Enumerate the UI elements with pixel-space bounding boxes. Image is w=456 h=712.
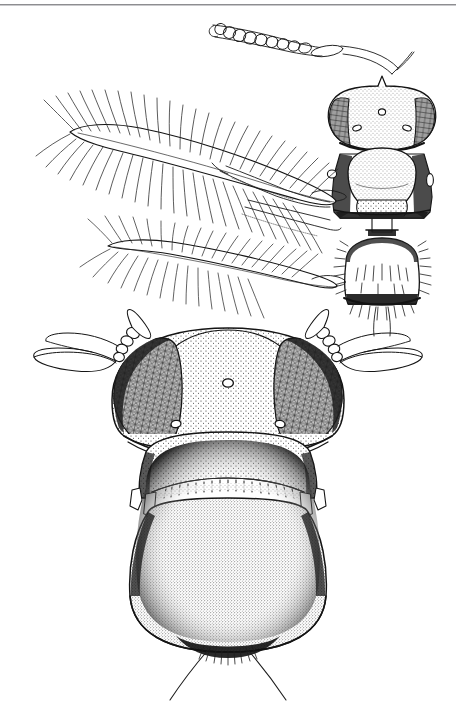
caudal-seta-left [170, 650, 208, 700]
median-ocellus-lower [223, 379, 234, 387]
fig-upper-hindwing [80, 216, 337, 318]
fig-upper-head [328, 76, 436, 151]
caudal-seta-right [248, 650, 286, 700]
fig-upper-antenna [209, 21, 414, 74]
median-ocellus [378, 109, 385, 115]
entomological-figure [0, 0, 456, 712]
fig-upper-pterothorax [327, 148, 433, 219]
wing-base-right [427, 174, 434, 187]
fig-upper-abdominal-segment [334, 219, 431, 336]
illustration-plate [0, 0, 456, 712]
fig-lower-pterothorax [120, 430, 340, 700]
